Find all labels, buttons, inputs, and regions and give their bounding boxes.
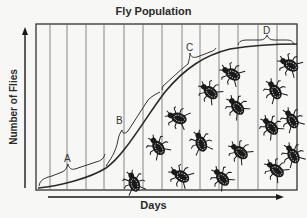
x-axis-arrow — [48, 194, 284, 200]
y-axis-arrow — [22, 27, 28, 188]
label-a: A — [64, 153, 71, 164]
label-b: B — [116, 115, 123, 126]
label-d: D — [263, 25, 270, 36]
label-c: C — [186, 42, 193, 53]
chart-canvas: A B C D — [0, 0, 307, 218]
